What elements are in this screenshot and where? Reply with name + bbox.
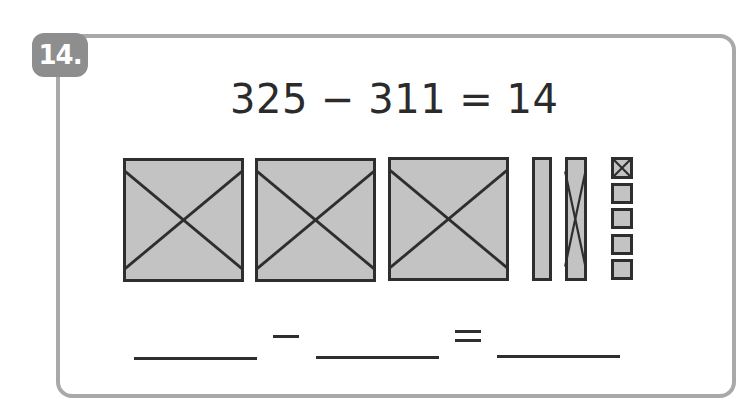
hundreds-block-3-crossed [388, 157, 509, 281]
ones-cube-5 [611, 259, 633, 280]
cross-out-icon [258, 161, 373, 279]
minus-sign [273, 335, 299, 338]
ones-cube-4 [611, 234, 633, 255]
answer-blank-minuend[interactable] [134, 357, 257, 360]
equals-sign-bottom [455, 339, 481, 342]
answer-blank-difference[interactable] [497, 355, 620, 358]
hundreds-block-1-crossed [123, 158, 244, 282]
tens-rod-1 [532, 157, 552, 281]
equation-text: 325 − 311 = 14 [230, 76, 520, 122]
cross-out-icon [126, 161, 241, 279]
hundreds-block-2-crossed [255, 158, 376, 282]
cross-out-icon [391, 160, 506, 278]
cross-out-icon [568, 160, 584, 278]
cross-out-icon [614, 160, 630, 176]
equals-sign-top [455, 330, 481, 333]
answer-blank-subtrahend[interactable] [316, 356, 439, 359]
problem-number-badge: 14. [32, 33, 88, 77]
ones-cube-3 [611, 208, 633, 229]
ones-cube-1-crossed [611, 157, 633, 179]
tens-rod-2-crossed [565, 157, 587, 281]
ones-cube-2 [611, 183, 633, 204]
